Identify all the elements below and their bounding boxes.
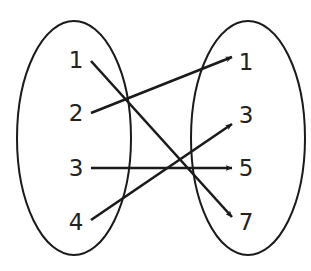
domain-value-4: 4 bbox=[69, 209, 84, 235]
domain-value-3: 3 bbox=[69, 155, 84, 181]
domain-value-1: 1 bbox=[69, 47, 84, 73]
range-value-3: 3 bbox=[239, 102, 254, 128]
domain-value-2: 2 bbox=[69, 100, 84, 126]
range-value-5: 5 bbox=[239, 155, 254, 181]
range-value-7: 7 bbox=[239, 209, 254, 235]
mapping-diagram: 1 2 3 4 1 3 5 7 bbox=[0, 0, 311, 271]
range-value-1: 1 bbox=[239, 49, 254, 75]
